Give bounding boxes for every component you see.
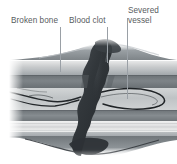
label-blood-clot: Blood clot [69,16,105,26]
fracture-figure: Broken bone Blood clot Severed vessel [0,0,177,164]
label-broken-bone: Broken bone [11,16,58,26]
fade-bottom [9,150,177,164]
label-severed-vessel: Severed vessel [128,6,159,25]
leader-line-broken-bone [60,27,61,72]
leader-line-blood-clot [107,27,108,63]
leader-line-severed-vessel [127,18,128,99]
fade-top [9,36,177,46]
